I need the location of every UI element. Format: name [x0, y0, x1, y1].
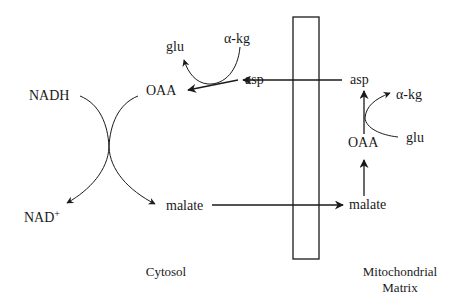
- label-matrix-akg: α-kg: [396, 88, 422, 102]
- label-matrix-malate: malate: [349, 198, 386, 212]
- label-cytosol-akg: α-kg: [224, 32, 250, 46]
- label-nad-charge: +: [54, 208, 60, 219]
- glu-to-akg-curve: [365, 93, 398, 137]
- region-matrix-line2: Matrix: [350, 280, 450, 296]
- mitochondrial-membrane: [293, 17, 319, 259]
- label-cytosol-glu: glu: [166, 40, 184, 54]
- akg-to-glu-curve: [184, 47, 240, 84]
- region-matrix-line1: Mitochondrial: [350, 264, 450, 280]
- label-cytosol-malate: malate: [166, 199, 203, 213]
- oaa-to-malate-curve: [109, 96, 155, 204]
- region-mitochondrial-matrix: Mitochondrial Matrix: [350, 264, 450, 295]
- label-nad-base: NAD: [24, 210, 54, 225]
- label-matrix-glu: glu: [406, 131, 424, 145]
- nadh-to-nad-curve: [67, 96, 109, 203]
- label-cytosol-asp: asp: [245, 73, 264, 87]
- region-cytosol: Cytosol: [126, 264, 206, 280]
- label-cytosol-oaa: OAA: [146, 84, 176, 98]
- label-nadh: NADH: [29, 89, 69, 103]
- label-nad-plus: NAD+: [24, 209, 60, 225]
- label-matrix-oaa: OAA: [348, 136, 378, 150]
- asp-to-oaa-arrow: [188, 80, 238, 90]
- label-matrix-asp: asp: [350, 73, 369, 87]
